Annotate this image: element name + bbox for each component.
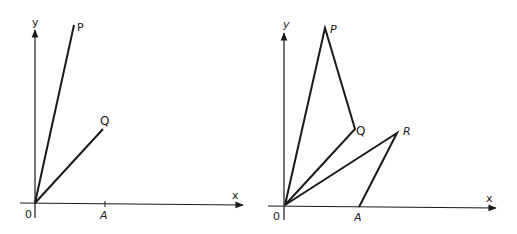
right-x-axis <box>268 206 496 208</box>
diagram-canvas: y x 0 P Q A y x 0 P Q R A <box>0 0 517 234</box>
right-y-label: y <box>282 18 290 31</box>
left-diagram: y x 0 P Q A <box>20 16 243 222</box>
left-point-a-label: A <box>99 209 108 222</box>
left-x-label: x <box>232 189 239 202</box>
right-point-a-label: A <box>353 211 362 224</box>
right-segment-opq <box>285 28 355 205</box>
right-origin-label: 0 <box>273 210 280 223</box>
right-point-r-label: R <box>403 125 411 138</box>
right-x-label: x <box>486 192 493 205</box>
left-origin-label: 0 <box>25 208 32 221</box>
left-segment-oq <box>35 129 103 203</box>
right-point-p-label: P <box>330 23 337 36</box>
left-point-p-label: P <box>77 21 84 34</box>
right-point-q-label: Q <box>356 124 365 138</box>
left-segment-op <box>35 25 74 203</box>
left-point-q-label: Q <box>100 114 109 128</box>
right-diagram: y x 0 P Q R A <box>268 18 496 224</box>
left-y-label: y <box>32 16 39 29</box>
left-x-axis <box>20 203 243 205</box>
